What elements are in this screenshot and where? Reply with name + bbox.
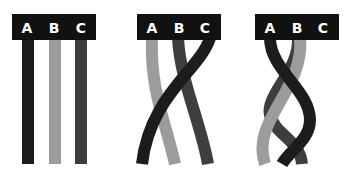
label-b: B: [49, 20, 60, 36]
panel-step-1: A B C: [12, 14, 96, 164]
strand-b: [49, 38, 61, 164]
panel-step-3: A B C: [255, 14, 339, 164]
label-a: A: [147, 20, 158, 36]
label-c: C: [200, 20, 210, 36]
label-b: B: [292, 20, 303, 36]
braid-diagram: A B C A B C A B C: [0, 0, 347, 172]
panel-step-2: A B C: [137, 14, 221, 164]
label-b: B: [174, 20, 185, 36]
strand-c: [75, 38, 87, 164]
label-c: C: [318, 20, 328, 36]
strand-a: [22, 38, 34, 164]
label-c: C: [76, 20, 86, 36]
label-a: A: [22, 20, 33, 36]
label-a: A: [265, 20, 276, 36]
